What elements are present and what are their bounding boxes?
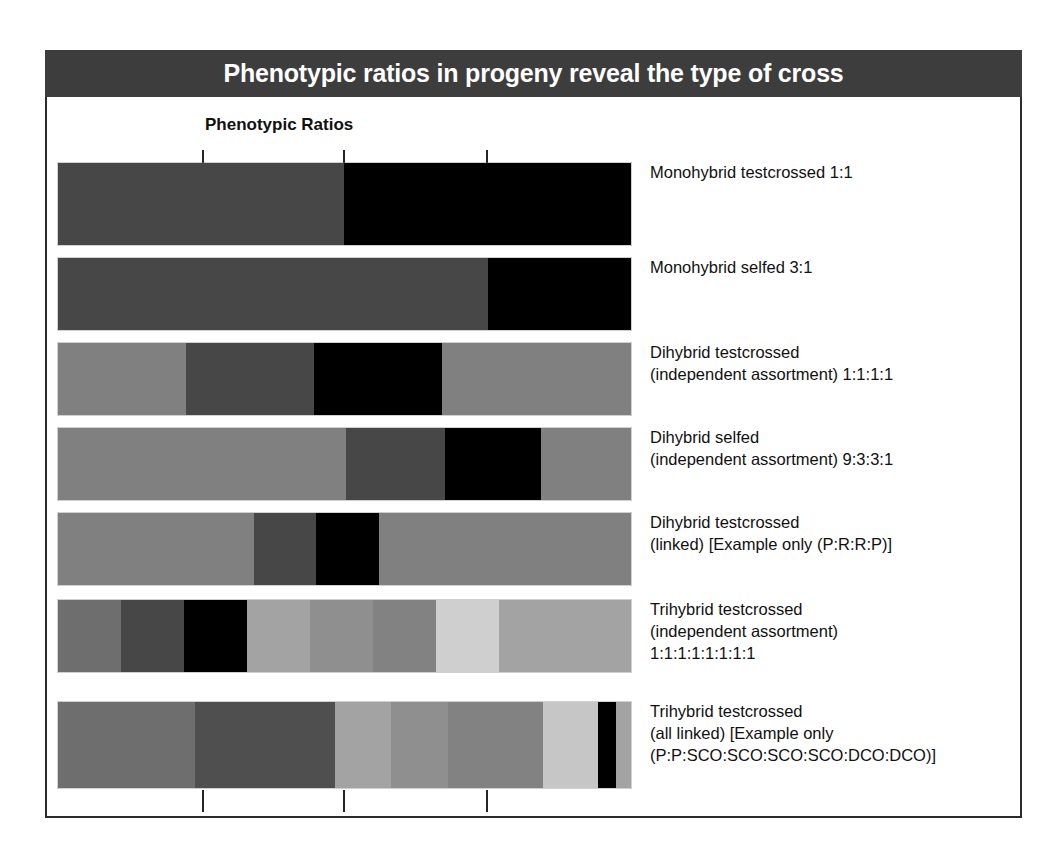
bar-segment-dihybrid-selfed-independent-3 [445, 428, 541, 500]
row-label-line: 1:1:1:1:1:1:1:1 [650, 642, 838, 664]
row-label-line: Trihybrid testcrossed [650, 700, 936, 722]
bar-segment-monohybrid-selfed-1 [58, 258, 488, 330]
bar-segment-dihybrid-selfed-independent-4 [541, 428, 631, 500]
column-header-phenotypic-ratios: Phenotypic Ratios [205, 115, 353, 135]
row-label-line: Dihybrid selfed [650, 426, 893, 448]
row-label-dihybrid-testcrossed-independent: Dihybrid testcrossed(independent assortm… [650, 341, 893, 385]
bar-segment-trihybrid-testcrossed-linked-7 [598, 702, 616, 788]
row-label-line: Monohybrid testcrossed 1:1 [650, 161, 853, 183]
bar-trihybrid-testcrossed-independent [58, 600, 631, 672]
bar-segment-trihybrid-testcrossed-independent-1 [58, 600, 121, 672]
bar-segment-trihybrid-testcrossed-independent-6 [373, 600, 436, 672]
chart-plot-area [58, 150, 631, 800]
bar-segment-trihybrid-testcrossed-independent-5 [310, 600, 373, 672]
axis-tick-bottom-1 [202, 790, 204, 812]
bar-segment-trihybrid-testcrossed-independent-4 [247, 600, 310, 672]
bar-segment-dihybrid-selfed-independent-2 [346, 428, 445, 500]
row-label-trihybrid-testcrossed-independent: Trihybrid testcrossed(independent assort… [650, 598, 838, 664]
row-label-line: (P:P:SCO:SCO:SCO:SCO:DCO:DCO)] [650, 744, 936, 766]
bar-dihybrid-testcrossed-independent [58, 343, 631, 415]
figure-title-banner: Phenotypic ratios in progeny reveal the … [45, 50, 1022, 97]
axis-tick-top-1 [202, 150, 204, 164]
axis-tick-top-3 [486, 150, 488, 164]
row-label-line: (independent assortment) 1:1:1:1 [650, 363, 893, 385]
bar-segment-monohybrid-testcrossed-2 [344, 163, 631, 245]
bar-segment-monohybrid-selfed-2 [488, 258, 631, 330]
bar-monohybrid-selfed [58, 258, 631, 330]
row-label-line: Trihybrid testcrossed [650, 598, 838, 620]
bar-segment-dihybrid-testcrossed-linked-2 [254, 513, 316, 585]
bar-segment-trihybrid-testcrossed-linked-6 [543, 702, 598, 788]
row-label-line: Dihybrid testcrossed [650, 511, 892, 533]
row-label-line: (linked) [Example only (P:R:R:P)] [650, 533, 892, 555]
row-label-monohybrid-selfed: Monohybrid selfed 3:1 [650, 256, 812, 278]
row-label-dihybrid-testcrossed-linked: Dihybrid testcrossed(linked) [Example on… [650, 511, 892, 555]
bar-segment-dihybrid-testcrossed-independent-2 [186, 343, 314, 415]
bar-dihybrid-selfed-independent [58, 428, 631, 500]
row-label-dihybrid-selfed-independent: Dihybrid selfed(independent assortment) … [650, 426, 893, 470]
bar-segment-dihybrid-testcrossed-independent-1 [58, 343, 186, 415]
bar-segment-trihybrid-testcrossed-independent-2 [121, 600, 184, 672]
axis-tick-top-2 [343, 150, 345, 164]
bar-segment-dihybrid-testcrossed-independent-3 [314, 343, 442, 415]
bar-segment-dihybrid-selfed-independent-1 [58, 428, 346, 500]
bar-segment-trihybrid-testcrossed-linked-3 [335, 702, 391, 788]
row-label-line: (independent assortment) [650, 620, 838, 642]
bar-segment-trihybrid-testcrossed-linked-5 [448, 702, 543, 788]
row-label-line: (all linked) [Example only [650, 722, 936, 744]
bar-segment-trihybrid-testcrossed-linked-8 [616, 702, 631, 788]
bar-trihybrid-testcrossed-linked [58, 702, 631, 788]
bar-segment-monohybrid-testcrossed-1 [58, 163, 344, 245]
row-label-trihybrid-testcrossed-linked: Trihybrid testcrossed(all linked) [Examp… [650, 700, 936, 766]
bar-segment-trihybrid-testcrossed-linked-4 [391, 702, 448, 788]
figure-page: Phenotypic ratios in progeny reveal the … [0, 0, 1056, 851]
bar-segment-trihybrid-testcrossed-linked-2 [195, 702, 335, 788]
bar-segment-dihybrid-testcrossed-linked-1 [58, 513, 254, 585]
bar-segment-dihybrid-testcrossed-independent-4 [442, 343, 631, 415]
page-title: Phenotypic ratios in progeny reveal the … [223, 59, 843, 88]
bar-segment-trihybrid-testcrossed-linked-1 [58, 702, 195, 788]
row-label-monohybrid-testcrossed: Monohybrid testcrossed 1:1 [650, 161, 853, 183]
bar-segment-dihybrid-testcrossed-linked-4 [379, 513, 631, 585]
bar-segment-dihybrid-testcrossed-linked-3 [316, 513, 379, 585]
row-label-line: Monohybrid selfed 3:1 [650, 256, 812, 278]
bar-dihybrid-testcrossed-linked [58, 513, 631, 585]
bar-segment-trihybrid-testcrossed-independent-8 [499, 600, 631, 672]
bar-segment-trihybrid-testcrossed-independent-3 [184, 600, 247, 672]
axis-tick-bottom-3 [486, 790, 488, 812]
axis-tick-bottom-2 [343, 790, 345, 812]
row-label-line: (independent assortment) 9:3:3:1 [650, 448, 893, 470]
bar-monohybrid-testcrossed [58, 163, 631, 245]
row-label-line: Dihybrid testcrossed [650, 341, 893, 363]
bar-segment-trihybrid-testcrossed-independent-7 [436, 600, 499, 672]
